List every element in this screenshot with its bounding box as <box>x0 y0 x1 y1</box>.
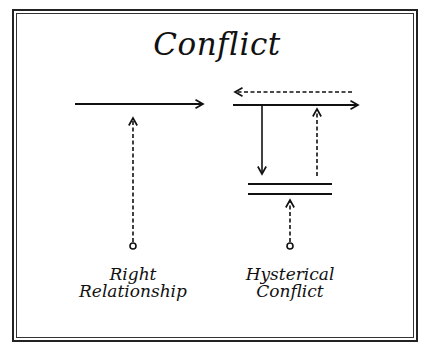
label-line-2: Relationship <box>78 283 188 300</box>
hysterical-conflict-label: Hysterical Conflict <box>235 266 345 300</box>
conflict-diagram <box>0 0 434 355</box>
hysterical-conflict-diagram <box>233 92 358 249</box>
origin-circle-icon <box>130 243 136 249</box>
origin-circle-icon <box>287 243 293 249</box>
right-relationship-diagram <box>75 104 203 249</box>
label-line-2: Conflict <box>235 283 345 300</box>
right-relationship-label: Right Relationship <box>78 266 188 300</box>
